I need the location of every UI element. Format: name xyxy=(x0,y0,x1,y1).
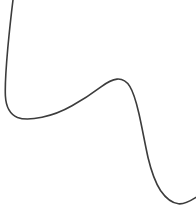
canvas-background xyxy=(0,0,196,211)
curve-svg xyxy=(0,0,196,211)
drawing-canvas xyxy=(0,0,196,211)
